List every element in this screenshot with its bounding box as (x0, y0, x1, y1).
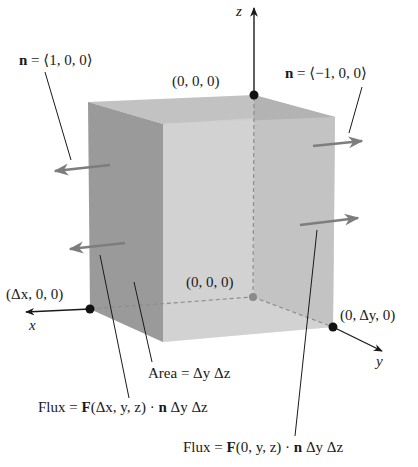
flux-back-tail: Δy Δz (302, 439, 343, 455)
flux-back-args: (0, y, z) · (236, 439, 294, 455)
flux-back-label: Flux = F(0, y, z) · n Δy Δz (183, 440, 343, 455)
flux-back-lead: Flux = (183, 439, 226, 455)
normal-vector-symbol: n (294, 439, 302, 455)
normal-front-value: = ⟨1, 0, 0⟩ (27, 52, 92, 68)
y-axis-label: y (376, 354, 383, 369)
x-axis (26, 309, 90, 312)
point-x-corner-label: (Δx, 0, 0) (6, 287, 63, 302)
point-origin (249, 293, 257, 301)
normal-back-label: n = ⟨−1, 0, 0⟩ (285, 66, 367, 81)
front-face-fill (163, 117, 335, 342)
point-y-corner (329, 323, 338, 332)
area-label: Area = Δy Δz (148, 366, 230, 381)
point-z-top (250, 91, 259, 100)
normal-vector-symbol: n (158, 399, 166, 415)
y-axis (333, 327, 382, 351)
flux-front-tail: Δy Δz (167, 399, 208, 415)
flux-front-args: (Δx, y, z) · (91, 399, 159, 415)
vector-field-symbol: F (226, 439, 235, 455)
leader-n-back (349, 87, 362, 133)
flux-front-label: Flux = F(Δx, y, z) · n Δy Δz (38, 400, 208, 415)
point-origin-label: (0, 0, 0) (186, 275, 234, 290)
point-z-top-label: (0, 0, 0) (172, 74, 220, 89)
flux-front-lead: Flux = (38, 399, 81, 415)
vector-field-symbol: F (81, 399, 90, 415)
leader-n-front (45, 72, 71, 160)
point-x-corner (86, 305, 95, 314)
normal-front-label: n = ⟨1, 0, 0⟩ (19, 53, 93, 68)
z-axis-label: z (236, 4, 242, 19)
normal-back-value: = ⟨−1, 0, 0⟩ (293, 65, 367, 81)
x-axis-label: x (29, 318, 36, 333)
point-y-corner-label: (0, Δy, 0) (340, 308, 395, 323)
